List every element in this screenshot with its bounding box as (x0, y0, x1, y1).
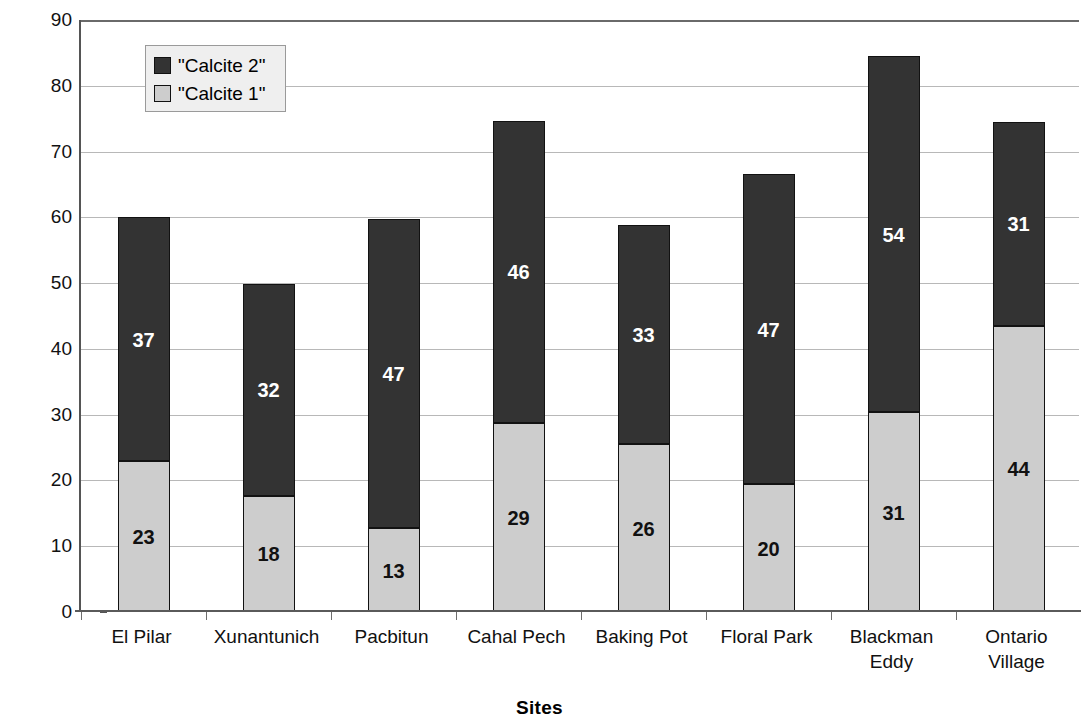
y-tick-label: 40 (28, 339, 72, 358)
y-tick-label: 30 (28, 405, 72, 424)
x-tick-label-line: Xunantunich (204, 624, 329, 649)
bar-value-label: 44 (1007, 458, 1029, 481)
bar-segment-calcite-2[interactable]: 54 (868, 56, 920, 412)
y-tick-label: 80 (28, 76, 72, 95)
bar-group[interactable]: 1347 (368, 219, 420, 612)
x-tick-label: Pacbitun (329, 624, 454, 649)
bar-segment-calcite-2[interactable]: 37 (118, 217, 170, 461)
bar-value-label: 32 (257, 379, 279, 402)
bar-value-label: 37 (132, 329, 154, 352)
bar-value-label: 46 (507, 261, 529, 284)
y-tick-label: 0 (28, 602, 72, 621)
y-tick-label: 50 (28, 273, 72, 292)
bar-segment-calcite-2[interactable]: 33 (618, 225, 670, 444)
x-tick-mark (831, 612, 832, 620)
x-tick-mark (956, 612, 957, 620)
x-tick-label-line: Village (954, 649, 1079, 674)
bar-group[interactable]: 4431 (993, 122, 1045, 612)
bar-value-label: 26 (632, 518, 654, 541)
x-axis-baseline (75, 610, 1081, 612)
bar-segment-calcite-2[interactable]: 32 (243, 284, 295, 496)
bar-value-label: 13 (382, 560, 404, 583)
bar-group[interactable]: 2047 (743, 175, 795, 612)
x-tick-label: BlackmanEddy (829, 624, 954, 674)
bar-segment-calcite-2[interactable]: 46 (493, 121, 545, 424)
bar-segment-calcite-1[interactable]: 44 (993, 326, 1045, 612)
x-tick-label-line: Blackman (829, 624, 954, 649)
x-tick-mark (581, 612, 582, 620)
x-axis-title: Sites (0, 697, 1079, 719)
x-tick-label: Xunantunich (204, 624, 329, 649)
bar-segment-calcite-1[interactable]: 23 (118, 461, 170, 612)
x-tick-label-line: Eddy (829, 649, 954, 674)
x-axis-labels: El PilarXunantunichPacbitunCahal PechBak… (79, 624, 1079, 684)
bar-segment-calcite-1[interactable]: 29 (493, 423, 545, 612)
y-tick-label: 90 (28, 10, 72, 29)
x-tick-label: OntarioVillage (954, 624, 1079, 674)
y-axis-ticks: 0102030405060708090 (28, 0, 72, 723)
bar-group[interactable]: 3154 (868, 56, 920, 612)
bar-value-label: 18 (257, 543, 279, 566)
x-tick-label: Baking Pot (579, 624, 704, 649)
legend-swatch-light-icon (154, 85, 171, 102)
bar-segment-calcite-1[interactable]: 20 (743, 484, 795, 612)
y-tick-label: 10 (28, 536, 72, 555)
x-tick-label-line: Baking Pot (579, 624, 704, 649)
y-tick-label: 20 (28, 470, 72, 489)
chart-legend: "Calcite 2" "Calcite 1" (145, 45, 286, 112)
bar-group[interactable]: 2946 (493, 121, 545, 612)
bar-value-label: 47 (382, 363, 404, 386)
x-tick-label: Cahal Pech (454, 624, 579, 649)
bar-value-label: 54 (882, 224, 904, 247)
x-tick-label-line: Cahal Pech (454, 624, 579, 649)
x-tick-label-line: Ontario (954, 624, 1079, 649)
x-tick-label: Floral Park (704, 624, 829, 649)
x-tick-label-line: El Pilar (79, 624, 204, 649)
bar-value-label: 23 (132, 526, 154, 549)
bar-segment-calcite-1[interactable]: 18 (243, 496, 295, 612)
bar-value-label: 47 (757, 319, 779, 342)
x-tick-mark (206, 612, 207, 620)
y-tick-label: 60 (28, 207, 72, 226)
legend-swatch-dark-icon (154, 57, 171, 74)
bar-value-label: 20 (757, 538, 779, 561)
x-tick-mark (81, 612, 82, 620)
bar-value-label: 29 (507, 507, 529, 530)
legend-item-calcite-2: "Calcite 2" (154, 51, 279, 79)
bar-segment-calcite-2[interactable]: 47 (743, 174, 795, 484)
bar-segment-calcite-2[interactable]: 31 (993, 122, 1045, 326)
bar-group[interactable]: 1832 (243, 284, 295, 612)
x-tick-label: El Pilar (79, 624, 204, 649)
bar-value-label: 33 (632, 324, 654, 347)
bar-segment-calcite-1[interactable]: 26 (618, 444, 670, 612)
bar-group[interactable]: 2633 (618, 225, 670, 612)
bar-segment-calcite-2[interactable]: 47 (368, 219, 420, 529)
x-tick-label-line: Floral Park (704, 624, 829, 649)
bar-segment-calcite-1[interactable]: 13 (368, 528, 420, 612)
x-tick-mark (456, 612, 457, 620)
legend-label-calcite-1: "Calcite 1" (178, 84, 265, 103)
bar-value-label: 31 (882, 502, 904, 525)
x-tick-mark (331, 612, 332, 620)
legend-item-calcite-1: "Calcite 1" (154, 79, 279, 107)
x-tick-label-line: Pacbitun (329, 624, 454, 649)
legend-label-calcite-2: "Calcite 2" (178, 56, 265, 75)
x-tick-mark (706, 612, 707, 620)
bar-group[interactable]: 2337 (118, 217, 170, 612)
y-tick-label: 70 (28, 142, 72, 161)
bar-value-label: 31 (1007, 213, 1029, 236)
y-tick-mark (100, 612, 107, 613)
bar-segment-calcite-1[interactable]: 31 (868, 412, 920, 612)
